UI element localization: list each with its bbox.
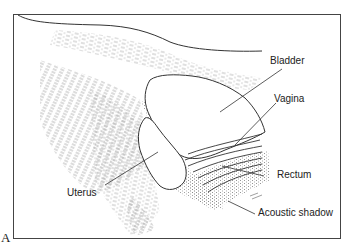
label-acoustic-shadow: Acoustic shadow [258, 208, 333, 218]
label-vagina: Vagina [274, 94, 304, 104]
label-rectum: Rectum [277, 170, 311, 180]
label-uterus: Uterus [67, 188, 96, 198]
panel-label: A [1, 231, 10, 244]
label-bladder: Bladder [270, 56, 304, 66]
shadow-dashes [250, 193, 262, 199]
